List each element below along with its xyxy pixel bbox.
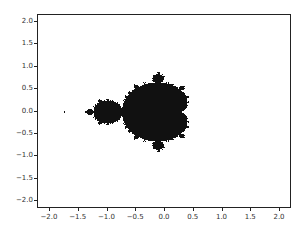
y-tick-label: 0.5: [22, 84, 33, 92]
plot-area: [37, 14, 291, 208]
x-tick-mark: [49, 208, 50, 211]
x-tick-mark: [78, 208, 79, 211]
x-tick-label: −1.5: [69, 213, 86, 221]
x-tick-label: −1.0: [98, 213, 115, 221]
y-tick-mark: [34, 178, 37, 179]
x-tick-label: −0.5: [127, 213, 144, 221]
y-tick-label: −1.5: [16, 174, 33, 182]
x-tick-label: −2.0: [41, 213, 58, 221]
y-tick-label: 1.5: [22, 39, 33, 47]
y-tick-mark: [34, 21, 37, 22]
figure: −2.0−1.5−1.0−0.50.00.51.01.52.02.01.51.0…: [0, 0, 306, 235]
x-tick-label: 0.0: [158, 213, 169, 221]
y-tick-label: 0.0: [22, 107, 33, 115]
x-tick-mark: [250, 208, 251, 211]
x-tick-mark: [279, 208, 280, 211]
y-tick-mark: [34, 200, 37, 201]
x-tick-mark: [107, 208, 108, 211]
x-tick-label: 0.5: [187, 213, 198, 221]
y-tick-label: −2.0: [16, 196, 33, 204]
y-tick-mark: [34, 111, 37, 112]
x-tick-label: 1.5: [245, 213, 256, 221]
x-tick-mark: [135, 208, 136, 211]
y-tick-label: −0.5: [16, 129, 33, 137]
x-tick-mark: [222, 208, 223, 211]
y-tick-label: −1.0: [16, 151, 33, 159]
y-tick-mark: [34, 66, 37, 67]
x-tick-mark: [164, 208, 165, 211]
y-tick-label: 1.0: [22, 62, 33, 70]
x-tick-mark: [193, 208, 194, 211]
y-tick-mark: [34, 155, 37, 156]
y-tick-mark: [34, 133, 37, 134]
y-tick-label: 2.0: [22, 17, 33, 25]
x-tick-label: 1.0: [216, 213, 227, 221]
x-tick-label: 2.0: [273, 213, 284, 221]
y-tick-mark: [34, 43, 37, 44]
y-tick-mark: [34, 88, 37, 89]
mandelbrot-image: [38, 15, 291, 208]
